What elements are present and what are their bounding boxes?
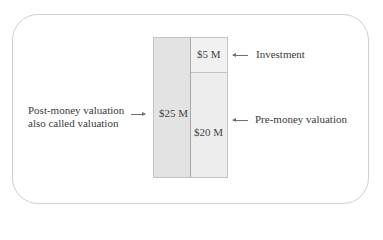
post-money-label-line2: also called valuation: [28, 117, 118, 130]
pre-money-value: $20 M: [194, 126, 223, 138]
investment-value: $5 M: [197, 48, 221, 60]
post-money-label-line1: Post-money valuation: [28, 104, 124, 117]
investment-label: Investment: [256, 48, 305, 61]
pre-money-label: Pre-money valuation: [255, 113, 347, 126]
pre-money-segment: [191, 73, 227, 177]
post-money-value: $25 M: [159, 107, 188, 119]
arrow-left-icon: [233, 55, 248, 56]
arrow-right-icon: [131, 114, 145, 115]
arrow-left-icon: [233, 120, 248, 121]
